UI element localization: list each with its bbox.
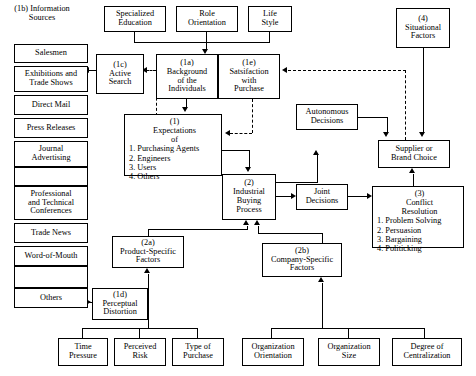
conflict-item: 4. Politicking <box>376 244 463 253</box>
conn-situational-to-supplier <box>423 48 424 133</box>
node-autonomous-decisions[interactable]: Autonomous Decisions <box>296 104 358 130</box>
conn-company-specific-up <box>322 233 323 243</box>
conn-expectations-to-buying <box>222 150 250 151</box>
conn-degree-central-riser <box>424 328 425 338</box>
node-situational-factors[interactable]: (4) Situational Factors <box>396 8 450 48</box>
expectations-item: 1. Purchasing Agents <box>128 144 221 153</box>
node-line3: Process <box>236 206 261 215</box>
node-line2: Brand Choice <box>391 154 437 163</box>
conflict-item: 2. Persuasion <box>376 226 463 235</box>
node-type-of-purchase[interactable]: Type of Purchase <box>172 338 224 366</box>
node-product-specific-factors[interactable]: (2a) Product-Specific Factors <box>112 236 184 268</box>
node-line2: Decisions <box>306 197 339 206</box>
expectations-item: 3. Users <box>128 163 221 172</box>
sidebar-item-label: Direct Mail <box>32 101 70 110</box>
conn-org-size-riser <box>348 328 349 338</box>
node-line2: Factors <box>411 32 435 41</box>
sidebar-header-line2: Sources <box>29 13 55 22</box>
node-line3: Purchase <box>234 85 264 94</box>
sidebar-item-professional-conferences[interactable]: Professional and Technical Conferences <box>14 186 88 220</box>
conn-expectations-drop <box>249 150 250 168</box>
node-satisfaction-purchase[interactable]: (1e) Satsifaction with Purchase <box>218 54 280 99</box>
sidebar-header-line1: Information <box>30 4 70 13</box>
sidebar-item-salesmen[interactable]: Salesmen <box>14 44 88 63</box>
sidebar-item-trade-news[interactable]: Trade News <box>14 223 88 243</box>
conn-role-drop <box>206 32 207 42</box>
conn-perceived-risk-riser <box>139 328 140 338</box>
sidebar-item-exhibitions[interactable]: Exhibitions and Trade Shows <box>14 66 88 92</box>
node-line2: Decisions <box>311 117 344 126</box>
sidebar-item-direct-mail[interactable]: Direct Mail <box>14 95 88 115</box>
arrow-into-expectations-top <box>182 107 188 112</box>
node-line2: Factors <box>290 264 314 273</box>
sidebar-header-code: (1b) <box>14 4 28 13</box>
node-line2: Factors <box>136 256 160 265</box>
sidebar-item-spacer-2 <box>14 266 88 288</box>
node-line2: Search <box>109 78 132 87</box>
conflict-item: 3. Bargaining <box>376 235 463 244</box>
arrow-into-product-specific-bottom <box>144 268 150 273</box>
conn-dashed-supplier-to-satisfaction <box>288 70 406 71</box>
arrow-into-buying-bottom-right <box>254 220 260 225</box>
node-industrial-buying-process[interactable]: (2) Industrial Buying Process <box>222 174 276 220</box>
node-degree-centralization[interactable]: Degree of Centralization <box>392 338 462 366</box>
node-background-individuals[interactable]: (1a) Background of the Individuals <box>156 54 218 99</box>
conn-autonomous-to-supplier-v <box>387 117 388 133</box>
conn-dashed-into-active-search <box>146 70 156 71</box>
node-line2: Size <box>342 352 356 361</box>
node-role-orientation[interactable]: Role Orientation <box>176 6 238 32</box>
node-line2: Education <box>118 19 152 28</box>
node-supplier-brand-choice[interactable]: Supplier or Brand Choice <box>378 140 450 168</box>
node-perceptual-distortion[interactable]: (1d) Perceptual Distortion <box>92 288 148 320</box>
sidebar-item-label2: Trade Shows <box>29 79 72 88</box>
node-line3: Individuals <box>168 85 205 94</box>
conn-autonomous-to-supplier-h <box>358 117 388 118</box>
conn-buying-to-autonomous-v <box>317 155 318 182</box>
sidebar-item-press-releases[interactable]: Press Releases <box>14 118 88 138</box>
node-line2: Purchase <box>183 352 213 361</box>
sidebar-item-journal-advertising[interactable]: Journal Advertising <box>14 141 88 167</box>
sidebar-item-label: Trade News <box>31 229 71 238</box>
conn-bottom-right-to-company-specific <box>322 283 323 329</box>
conn-bottom-right-bus <box>271 328 425 329</box>
node-organization-orientation[interactable]: Organization Orientation <box>242 338 304 366</box>
node-code: (3) <box>376 189 463 198</box>
node-line1: Conflict <box>376 198 463 207</box>
arrow-into-company-specific-bottom <box>318 277 324 282</box>
node-joint-decisions[interactable]: Joint Decisions <box>296 184 348 210</box>
node-perceived-risk[interactable]: Perceived Risk <box>114 338 166 366</box>
arrow-into-buying-top <box>245 167 251 172</box>
conn-time-pressure-riser <box>82 328 83 338</box>
node-conflict-resolution[interactable]: (3) Conflict Resolution 1. Problem Solvi… <box>372 186 464 248</box>
conn-bottom-left-bus <box>82 328 198 329</box>
conn-bottom-left-to-product-specific <box>148 274 149 329</box>
node-company-specific-factors[interactable]: (2b) Company-Specific Factors <box>262 243 342 277</box>
conn-product-to-buying-v <box>247 226 248 230</box>
node-time-pressure[interactable]: Time Pressure <box>58 338 108 366</box>
sidebar-header: (1b) Information Sources <box>4 4 80 23</box>
node-specialized-education[interactable]: Specialized Education <box>104 6 166 32</box>
node-line2: Risk <box>132 352 147 361</box>
arrow-into-satisfaction-right <box>282 67 287 73</box>
sidebar-item-label: Word-of-Mouth <box>25 252 78 261</box>
sidebar-item-others[interactable]: Others <box>14 288 88 308</box>
arrow-into-supplier-top-right <box>419 132 425 137</box>
sidebar-item-word-of-mouth[interactable]: Word-of-Mouth <box>14 246 88 266</box>
node-line2: Style <box>261 19 278 28</box>
sidebar-item-label: Press Releases <box>27 124 76 133</box>
arrow-into-autonomous-bottom <box>313 150 319 155</box>
conn-buying-to-autonomous-h <box>276 182 318 183</box>
arrow-into-buying-bottom-left <box>243 220 249 225</box>
node-organization-size[interactable]: Organization Size <box>318 338 380 366</box>
node-expectations[interactable]: (1) Expectations of 1. Purchasing Agents… <box>124 114 222 176</box>
conn-conflict-to-supplier <box>413 174 414 186</box>
node-line2: Pressure <box>69 352 97 361</box>
node-life-style[interactable]: Life Style <box>248 6 292 32</box>
node-code: (1) <box>128 117 221 126</box>
sidebar-item-label: Others <box>40 294 62 303</box>
arrow-into-supplier-top-left <box>383 132 389 137</box>
node-line2: Centralization <box>404 352 451 361</box>
node-active-search[interactable]: (1c) Active Search <box>96 54 144 94</box>
node-line1: Expectations <box>128 126 221 135</box>
expectations-item: 4. Others <box>128 172 221 181</box>
